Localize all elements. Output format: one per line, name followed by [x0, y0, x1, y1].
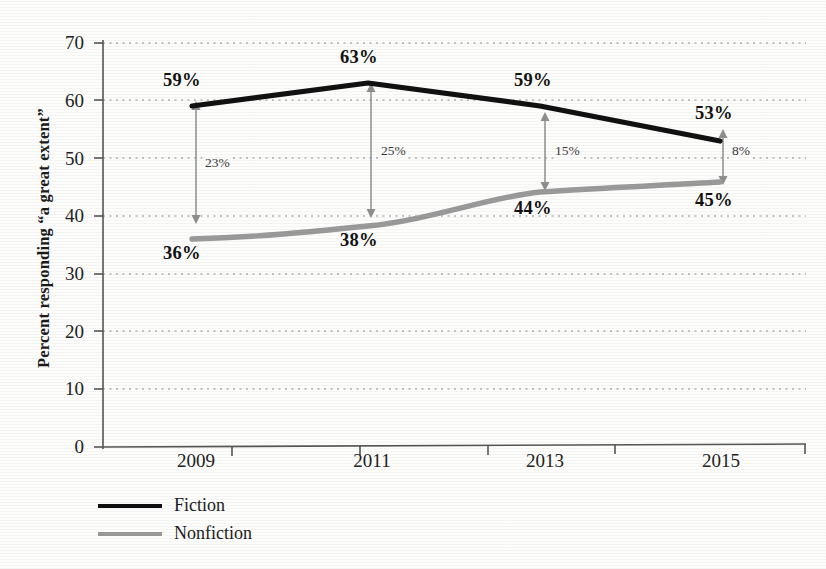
legend-label-nonfiction: Nonfiction: [174, 524, 252, 542]
gap-label-2011: 25%: [380, 143, 407, 159]
series-fiction: [192, 83, 720, 141]
gap-annotations: [192, 83, 728, 224]
data-label-nonfiction-2015: 45%: [695, 190, 733, 211]
legend-item-fiction[interactable]: Fiction: [98, 492, 252, 520]
x-tick-2009: 2009: [151, 450, 241, 472]
data-label-fiction-2011: 63%: [340, 47, 378, 68]
x-axis-line: [103, 444, 806, 447]
gap-label-2013: 15%: [554, 143, 581, 159]
legend: Fiction Nonfiction: [98, 492, 252, 548]
data-label-nonfiction-2009: 36%: [163, 243, 201, 264]
data-label-nonfiction-2013: 44%: [514, 198, 552, 219]
legend-item-nonfiction[interactable]: Nonfiction: [98, 520, 252, 548]
legend-line-icon-fiction: [98, 504, 162, 508]
data-label-fiction-2013: 59%: [514, 70, 552, 91]
gap-arrow-2011: [367, 83, 376, 218]
legend-line-icon-nonfiction: [98, 532, 162, 536]
gap-label-2009: 23%: [204, 155, 231, 171]
line-chart: Percent responding “a great extent” 70 6…: [0, 0, 826, 569]
data-label-nonfiction-2011: 38%: [340, 230, 378, 251]
series-nonfiction: [192, 182, 720, 239]
x-tick-2013: 2013: [500, 450, 590, 472]
gap-label-2015: 8%: [731, 143, 751, 159]
plot-area: [0, 0, 826, 569]
y-axis: [94, 40, 103, 449]
gap-arrow-2009: [192, 101, 201, 224]
gap-arrow-2013: [541, 112, 550, 191]
legend-label-fiction: Fiction: [174, 496, 225, 514]
x-tick-2015: 2015: [676, 450, 766, 472]
x-tick-2011: 2011: [327, 450, 417, 472]
data-label-fiction-2015: 53%: [695, 103, 733, 124]
data-label-fiction-2009: 59%: [163, 70, 201, 91]
gap-arrow-2015: [719, 129, 728, 185]
